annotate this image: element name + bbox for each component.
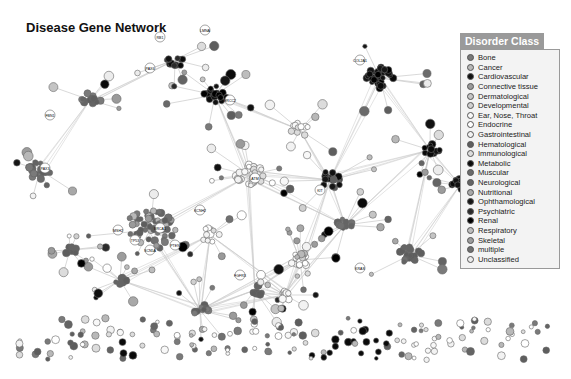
gene-node <box>392 238 398 244</box>
gene-node <box>129 221 136 228</box>
gene-node <box>70 332 74 336</box>
legend-label: Connective tissue <box>478 82 538 91</box>
legend-item: Respiratory <box>467 226 559 236</box>
network-edge <box>202 235 210 307</box>
gene-node <box>425 348 430 353</box>
gene-node <box>129 352 137 360</box>
legend-swatch-icon <box>467 256 474 263</box>
gene-node <box>302 260 308 266</box>
gene-node <box>157 209 162 214</box>
gene-node <box>207 144 216 153</box>
gene-node <box>202 64 209 71</box>
gene-node <box>285 332 291 338</box>
gene-node <box>219 176 223 180</box>
gene-node <box>80 342 84 346</box>
gene-node <box>418 250 425 257</box>
gene-node <box>16 352 23 359</box>
network-edge <box>210 235 286 291</box>
legend-swatch-icon <box>467 150 474 157</box>
gene-node <box>171 63 177 69</box>
legend-label: Unclassified <box>478 255 519 264</box>
network-edge <box>326 150 430 175</box>
gene-node <box>532 321 537 326</box>
gene-node <box>437 147 442 152</box>
legend-label: Psychiatric <box>478 207 515 216</box>
gene-node <box>112 94 121 103</box>
node-label: PTEN <box>170 244 180 248</box>
gene-node <box>78 332 83 337</box>
gene-node <box>210 41 219 50</box>
gene-node <box>436 334 441 339</box>
gene-node <box>422 169 428 175</box>
gene-node <box>299 300 309 310</box>
gene-node <box>14 160 21 167</box>
legend-item: Unclassified <box>467 254 559 264</box>
legend-label: Cardiovascular <box>478 72 529 81</box>
legend-label: Skeletal <box>478 236 505 245</box>
legend-item: Cancer <box>467 63 559 73</box>
gene-node <box>140 317 145 322</box>
gene-node <box>321 350 326 355</box>
gene-node <box>132 268 138 274</box>
legend-title: Disorder Class <box>460 33 544 49</box>
legend-swatch-icon <box>467 246 474 253</box>
gene-node <box>374 357 378 361</box>
gene-node <box>278 305 284 311</box>
legend-swatch-icon <box>467 112 474 119</box>
legend-item: Nutritional <box>467 187 559 197</box>
legend-label: Metabolic <box>478 159 511 168</box>
gene-node <box>94 100 99 105</box>
gene-node <box>52 336 60 344</box>
gene-node <box>161 238 168 245</box>
gene-node <box>330 176 337 183</box>
legend-item: Connective tissue <box>467 82 559 92</box>
gene-node <box>305 271 310 276</box>
gene-node <box>211 228 216 233</box>
gene-node <box>47 350 53 356</box>
gene-node <box>218 253 225 260</box>
legend-label: Cancer <box>478 63 502 72</box>
gene-node <box>64 321 72 329</box>
legend-swatch-icon <box>467 102 474 109</box>
gene-node <box>192 311 198 317</box>
gene-node <box>246 164 251 169</box>
gene-node <box>236 139 245 148</box>
gene-node <box>422 145 427 150</box>
gene-node <box>433 165 443 175</box>
gene-node <box>234 327 242 335</box>
network-edge <box>86 60 175 102</box>
gene-node <box>543 347 550 354</box>
legend-swatch-icon <box>467 131 474 138</box>
gene-node <box>406 245 412 251</box>
network-edge <box>328 150 430 180</box>
gene-node <box>395 338 400 343</box>
gene-node <box>296 262 302 268</box>
gene-node <box>266 342 270 346</box>
legend-item: Renal <box>467 216 559 226</box>
gene-node <box>206 351 211 356</box>
gene-node <box>288 128 294 134</box>
node-label: FBN1 <box>45 114 54 118</box>
gene-node <box>425 119 434 128</box>
gene-node <box>288 351 292 355</box>
gene-node <box>140 343 145 348</box>
gene-node <box>211 346 217 352</box>
legend-swatch-icon <box>467 217 474 224</box>
gene-node <box>80 97 85 102</box>
gene-node <box>392 135 400 143</box>
node-label: KIT <box>317 189 323 193</box>
gene-node <box>154 331 160 337</box>
gene-node <box>399 352 405 358</box>
legend-item: Developmental <box>467 101 559 111</box>
gene-node <box>294 238 300 244</box>
legend-swatch-icon <box>467 237 474 244</box>
gene-node <box>265 282 271 288</box>
network-edge <box>380 82 430 150</box>
gene-node <box>46 357 50 361</box>
gene-node <box>346 316 350 320</box>
network-edge <box>330 73 376 180</box>
gene-node <box>190 343 194 347</box>
gene-node <box>182 70 187 75</box>
legend-item: Psychiatric <box>467 207 559 217</box>
gene-node <box>247 104 254 111</box>
